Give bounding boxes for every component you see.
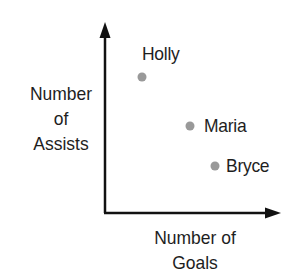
data-point-bryce (211, 162, 220, 171)
x-axis-arrow-icon (265, 208, 281, 219)
x-axis-label-line-1: Number of (144, 225, 245, 250)
x-axis-label-line-2: Goals (144, 250, 245, 274)
y-axis-arrow-icon (100, 22, 111, 38)
y-axis-label-line-3: Assists (18, 131, 104, 156)
x-axis-label: Number of Goals (140, 225, 250, 274)
y-axis-label: Number of Assists (14, 81, 108, 156)
point-label-maria: Maria (204, 114, 246, 138)
point-label-holly: Holly (142, 42, 179, 66)
y-axis-label-line-2: of (18, 106, 104, 131)
data-point-holly (138, 73, 147, 82)
y-axis-label-line-1: Number (18, 81, 104, 106)
data-point-maria (186, 122, 195, 131)
point-label-bryce: Bryce (226, 154, 269, 178)
